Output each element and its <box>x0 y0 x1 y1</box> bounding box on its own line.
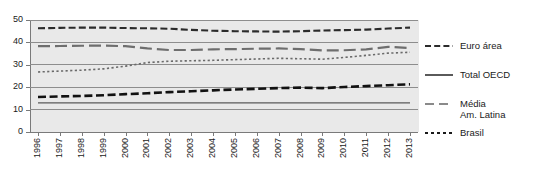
x-axis-tick-mark <box>82 132 83 136</box>
series-line-3 <box>38 46 410 51</box>
legend-item: Total OECD <box>424 69 510 80</box>
x-axis-tick-label: 2003 <box>186 138 195 158</box>
series-line-5 <box>38 84 410 97</box>
x-axis-tick-label: 2008 <box>296 138 305 158</box>
x-axis-tick-label: 2005 <box>230 138 239 158</box>
x-axis-tick-mark <box>60 132 61 136</box>
legend-line-sample <box>424 41 454 51</box>
x-axis-tick-mark <box>366 132 367 136</box>
legend-label: Euro área <box>460 40 502 51</box>
x-axis-tick-label: 2002 <box>164 138 173 158</box>
x-axis-tick-label: 2007 <box>274 138 283 158</box>
y-axis-tick-label: 30 <box>1 60 23 69</box>
x-axis-tick-label: 1998 <box>77 138 86 158</box>
chart-figure: 01020304050 1996199719981999200020012002… <box>0 0 539 185</box>
y-axis-tick-label: 20 <box>1 82 23 91</box>
x-axis-tick-mark <box>213 132 214 136</box>
x-axis-tick-label: 2013 <box>405 138 414 158</box>
y-axis: 01020304050 <box>0 20 30 132</box>
y-axis-tick-label: 0 <box>1 127 23 136</box>
y-axis-tick-label: 40 <box>1 37 23 46</box>
x-axis-tick-mark <box>191 132 192 136</box>
x-axis-line <box>30 132 418 133</box>
x-axis-tick-mark <box>301 132 302 136</box>
x-axis-tick-label: 2009 <box>317 138 326 158</box>
y-axis-tick-label: 10 <box>1 105 23 114</box>
x-axis-tick-mark <box>235 132 236 136</box>
x-axis-tick-label: 2001 <box>142 138 151 158</box>
legend-line-sample <box>424 70 454 80</box>
legend-item: Brasil <box>424 127 484 138</box>
series-line-1 <box>38 28 410 32</box>
chart-canvas <box>30 20 418 132</box>
chart-legend: Euro áreaTotal OECDMédia Am. LatinaBrasi… <box>424 40 539 145</box>
legend-label: Total OECD <box>460 69 510 80</box>
x-axis-tick-mark <box>279 132 280 136</box>
x-axis-tick-label: 2011 <box>361 138 370 157</box>
legend-item: Média Am. Latina <box>424 98 505 120</box>
x-axis-tick-mark <box>322 132 323 136</box>
y-axis-tick-label: 50 <box>1 15 23 24</box>
x-axis-tick-mark <box>344 132 345 136</box>
x-axis-tick-mark <box>147 132 148 136</box>
x-axis-tick-mark <box>38 132 39 136</box>
legend-label: Média Am. Latina <box>460 98 505 120</box>
plot-area <box>30 20 418 132</box>
x-axis-tick-label: 2000 <box>121 138 130 158</box>
x-axis-tick-mark <box>104 132 105 136</box>
legend-item: Euro área <box>424 40 502 51</box>
x-axis-tick-mark <box>257 132 258 136</box>
series-line-4 <box>38 52 410 72</box>
x-axis-tick-label: 2004 <box>208 138 217 158</box>
x-axis-tick-label: 2006 <box>252 138 261 158</box>
x-axis-tick-label: 1997 <box>55 138 64 158</box>
x-axis-tick-label: 2010 <box>339 138 348 158</box>
x-axis: 1996199719981999200020012002200320042005… <box>30 132 418 185</box>
x-axis-tick-mark <box>388 132 389 136</box>
legend-line-sample <box>424 128 454 138</box>
x-axis-tick-label: 2012 <box>383 138 392 158</box>
x-axis-tick-mark <box>126 132 127 136</box>
x-axis-tick-label: 1996 <box>33 138 42 158</box>
x-axis-tick-label: 1999 <box>99 138 108 158</box>
legend-line-sample <box>424 99 454 109</box>
legend-label: Brasil <box>460 127 484 138</box>
x-axis-tick-mark <box>169 132 170 136</box>
x-axis-tick-mark <box>410 132 411 136</box>
